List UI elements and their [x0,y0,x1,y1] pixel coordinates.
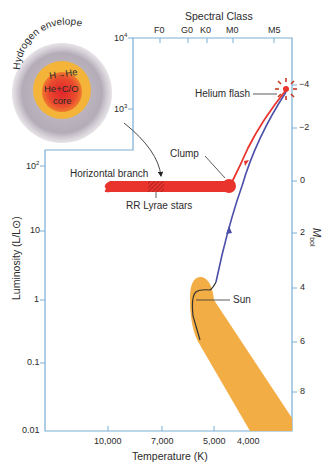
bottom-tick-label: 7,000 [151,436,174,446]
bottom-axis-ticks [108,426,214,431]
rr-lyrae-hatch [148,181,164,192]
right-tick-label: −2 [299,122,309,132]
right-tick-label: 2 [300,227,305,237]
right-tick-label: 6 [300,336,305,346]
right-tick-label: −4 [299,79,309,89]
core-label-line2: core [53,95,71,106]
right-tick-label: 8 [300,386,305,396]
left-tick-label: 1 [34,294,39,304]
bottom-tick-label: 4,000 [237,436,260,446]
mbol-axis-title: Mbol [309,228,323,247]
clump-marker [222,179,236,193]
left-tick-label: 102 [26,160,39,171]
sun-label: Sun [233,294,251,305]
top-axis-ticks [160,38,274,43]
helium-flash-label: Helium flash [195,88,250,99]
bottom-tick-label: 10,000 [94,436,122,446]
top-tick-label: F0 [154,25,165,35]
top-tick-label: M0 [226,25,239,35]
core-label-line1: He+C/O [44,83,79,94]
right-axis-ticks [292,85,297,392]
right-tick-label: 0 [300,175,305,185]
left-tick-label: 10 [30,225,40,235]
left-tick-label: 0.1 [27,357,40,367]
left-tick-label: 0.01 [22,425,40,435]
clump-label: Clump [170,148,199,159]
ascent-arrow-icon [226,226,232,234]
top-tick-label: M5 [268,25,281,35]
clump-leader [205,156,225,178]
spectral-class-title: Spectral Class [185,10,253,22]
temperature-axis-title: Temperature (K) [132,450,208,462]
horizontal-branch-label: Horizontal branch [70,168,148,179]
bottom-tick-label: 5,000 [203,436,226,446]
top-tick-label: G0 [181,25,193,35]
horizontal-branch-band [105,181,228,192]
right-tick-label: 4 [300,282,305,292]
left-tick-label: 103 [114,103,127,114]
left-tick-label: 104 [114,32,127,43]
helium-flash-point [283,86,289,92]
rr-lyrae-label: RR Lyrae stars [126,200,192,211]
luminosity-axis-title: Luminosity (L/L⊙) [10,216,22,300]
top-tick-label: K0 [200,25,211,35]
